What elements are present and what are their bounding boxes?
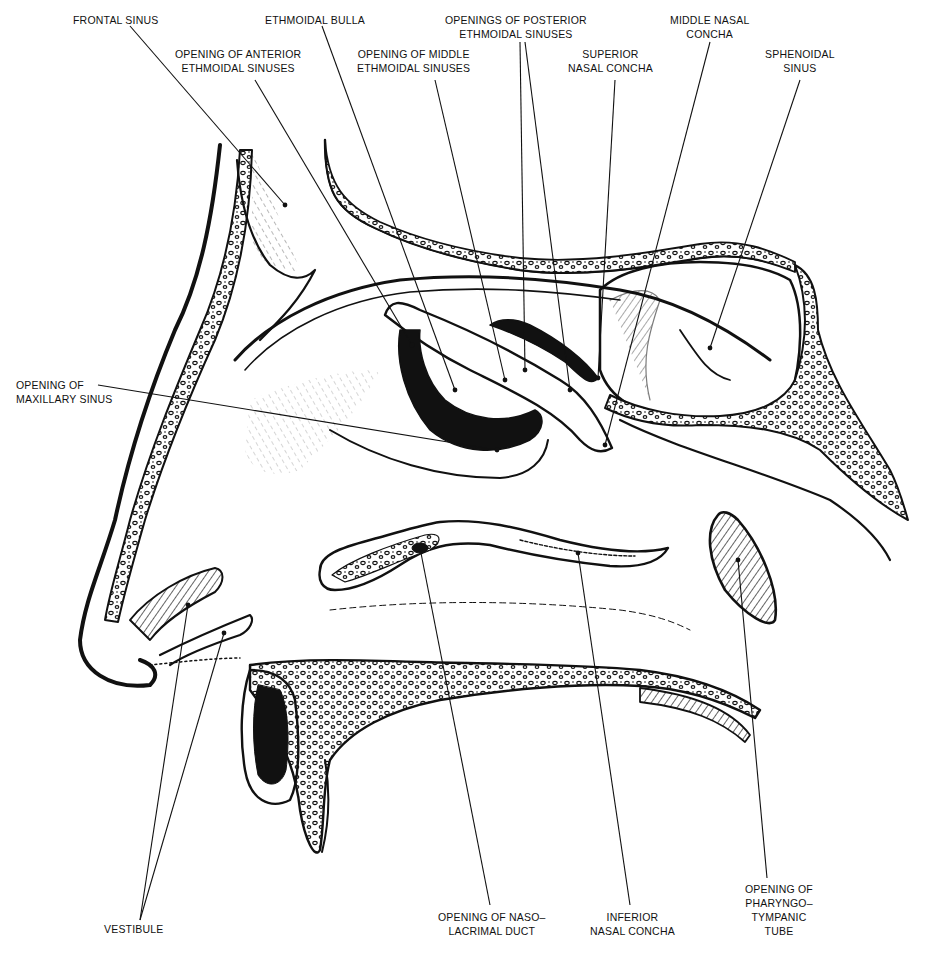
label-opening-anterior-ethmoidal-sinuses: OPENING OF ANTERIOR ETHMOIDAL SINUSES [175, 47, 301, 75]
ethmoidal-bulla [399, 330, 542, 450]
label-opening-nasolacrimal-duct: OPENING OF NASO– LACRIMAL DUCT [438, 910, 546, 938]
label-vestibule: VESTIBULE [104, 922, 164, 936]
nasal-bone [105, 150, 252, 622]
vestibule [130, 568, 223, 640]
label-sphenoidal-sinus: SPHENOIDAL SINUS [765, 47, 835, 75]
nasal-cavity-illustration [0, 0, 929, 957]
label-inferior-nasal-concha: INFERIOR NASAL CONCHA [590, 910, 675, 938]
label-opening-maxillary-sinus: OPENING OF MAXILLARY SINUS [16, 378, 113, 406]
drawing [80, 140, 908, 853]
label-opening-pharyngotympanic-tube: OPENING OF PHARYNGO– TYMPANIC TUBE [745, 882, 813, 938]
label-middle-nasal-concha: MIDDLE NASAL CONCHA [670, 13, 749, 41]
pharyngotympanic-opening [710, 512, 776, 623]
label-opening-middle-ethmoidal-sinuses: OPENING OF MIDDLE ETHMOIDAL SINUSES [357, 47, 470, 75]
label-openings-posterior-ethmoidal-sinuses: OPENINGS OF POSTERIOR ETHMOIDAL SINUSES [445, 13, 587, 41]
label-frontal-sinus: FRONTAL SINUS [73, 13, 158, 27]
label-superior-nasal-concha: SUPERIOR NASAL CONCHA [568, 47, 653, 75]
label-ethmoidal-bulla: ETHMOIDAL BULLA [265, 13, 365, 27]
